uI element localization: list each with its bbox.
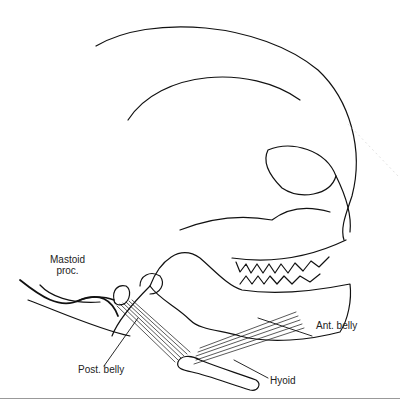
- label-post-belly: Post. belly: [78, 364, 124, 375]
- mastoid-process: [114, 286, 130, 305]
- cranium-inner: [128, 77, 300, 120]
- leader-post-belly: [104, 318, 138, 366]
- label-mastoid: Mastoid proc.: [50, 254, 85, 276]
- label-hyoid: Hyoid: [270, 375, 296, 386]
- cranium-outline: [96, 27, 356, 240]
- orbit: [266, 146, 336, 195]
- bottom-divider: [0, 398, 400, 399]
- anatomical-drawing: [0, 0, 400, 407]
- lower-teeth: [240, 274, 320, 284]
- leader-hyoid: [234, 360, 268, 378]
- anterior-belly: [194, 312, 304, 364]
- label-mastoid-line1: Mastoid: [50, 254, 85, 265]
- label-ant-belly: Ant. belly: [316, 320, 357, 331]
- hyoid-bone: [178, 356, 259, 390]
- zygomatic-arch: [180, 208, 330, 230]
- label-mastoid-line2: proc.: [50, 265, 85, 276]
